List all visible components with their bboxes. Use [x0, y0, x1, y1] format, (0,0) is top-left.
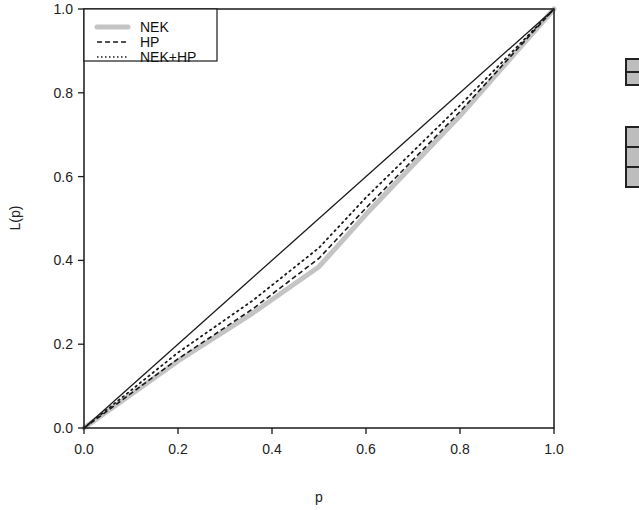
plot-lines — [84, 9, 554, 428]
y-tick-label: 1.0 — [54, 1, 74, 17]
side-widget-cell — [627, 128, 639, 148]
x-tick-label: 0.0 — [74, 441, 94, 457]
legend: NEK HP NEK+HP — [84, 9, 217, 65]
y-tick-label: 0.4 — [54, 252, 74, 268]
x-tick-label: 1.0 — [544, 441, 564, 457]
x-tick-label: 0.4 — [262, 441, 282, 457]
legend-label: NEK — [140, 19, 169, 35]
side-widget-cell — [627, 148, 639, 168]
x-axis-label: p — [315, 489, 323, 505]
side-widget-cell — [627, 168, 639, 186]
x-tick-label: 0.6 — [356, 441, 376, 457]
x-axis: 0.00.20.40.60.81.0 — [74, 428, 564, 457]
series-equality-line — [84, 9, 554, 428]
side-widget-cell — [627, 60, 639, 73]
y-axis: 0.00.20.40.60.81.0 — [54, 1, 84, 436]
y-tick-label: 0.8 — [54, 85, 74, 101]
side-widget-cell — [627, 73, 639, 84]
side-widget-group-1 — [625, 58, 639, 86]
legend-label: HP — [140, 34, 159, 50]
y-tick-label: 0.0 — [54, 420, 74, 436]
legend-label: NEK+HP — [140, 49, 196, 65]
x-tick-label: 0.2 — [168, 441, 188, 457]
y-axis-label: L(p) — [7, 206, 23, 231]
y-tick-label: 0.2 — [54, 336, 74, 352]
x-tick-label: 0.8 — [450, 441, 470, 457]
y-tick-label: 0.6 — [54, 169, 74, 185]
side-widget-group-2 — [625, 126, 639, 188]
